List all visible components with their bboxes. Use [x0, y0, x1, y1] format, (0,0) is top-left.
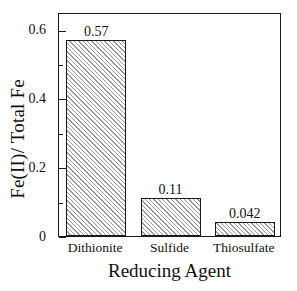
y-axis-major-tick	[59, 168, 66, 169]
y-axis-tick-labels: 0.60.40.20	[0, 0, 56, 291]
bar	[141, 198, 201, 236]
bar	[215, 222, 275, 236]
y-axis-minor-tick	[59, 134, 63, 135]
x-axis-tick-label: Sulfide	[132, 239, 206, 256]
y-axis-minor-tick	[59, 65, 63, 66]
bar-value-label: 0.57	[54, 25, 138, 39]
x-axis-tick-label: Dithionite	[58, 239, 132, 256]
bar-chart-figure: Fe(II)/ Total Fe 0.60.40.20 0.570.110.04…	[0, 0, 297, 291]
y-axis-tick-label: 0.6	[0, 23, 46, 37]
x-axis-tick-labels: DithioniteSulfideThiosulfate	[58, 239, 281, 259]
bar-value-label: 0.042	[203, 207, 287, 221]
bar-value-label: 0.11	[129, 183, 213, 197]
y-axis-tick-label: 0.2	[0, 161, 46, 175]
y-axis-tick-label: 0	[0, 230, 46, 244]
y-axis-major-tick	[59, 99, 66, 100]
y-axis-minor-tick	[59, 203, 63, 204]
y-axis-tick-label: 0.4	[0, 92, 46, 106]
bar	[66, 40, 126, 236]
x-axis-tick-label: Thiosulfate	[207, 239, 281, 256]
plot-area: 0.570.110.042	[58, 13, 281, 237]
x-axis-title: Reducing Agent	[58, 259, 281, 282]
